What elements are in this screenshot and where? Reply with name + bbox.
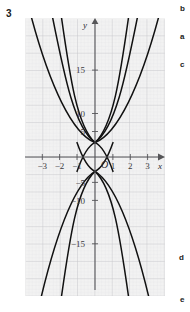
curve-label-c: c [180,60,184,69]
ytick-label-10: 10 [76,109,86,119]
ytick-label--5: −5 [75,178,85,188]
graph-plot-area: −3 −2 −1 1 2 3 15 10 5 −5 −10 −15 O x y [25,18,165,296]
curve-label-b: b [180,4,185,13]
ytick-label--10: −10 [71,196,86,206]
xtick-label-3: 3 [145,161,150,171]
xtick-label-1: 1 [111,161,116,171]
xtick-label--2: −2 [55,161,65,171]
y-axis-label: y [82,20,87,30]
figure-number: 3 [6,8,12,19]
curve-label-e: e [180,295,184,304]
xtick-label--3: −3 [38,161,48,171]
origin-label: O [101,159,108,170]
ytick-label--15: −15 [71,239,86,249]
ytick-label-5: 5 [81,127,86,137]
xtick-label--1: −1 [72,161,82,171]
ytick-label-15: 15 [76,65,86,75]
xtick-label-2: 2 [128,161,133,171]
x-axis-label: x [157,161,162,171]
curve-label-d: d [179,253,184,262]
curve-label-a: a [180,32,184,41]
